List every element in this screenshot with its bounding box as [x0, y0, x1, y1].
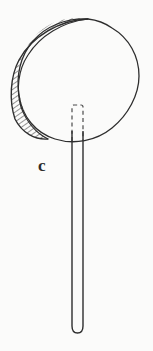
figure-part-label-c: c	[38, 157, 46, 174]
disc-outline	[18, 19, 139, 142]
figure-container: c	[0, 0, 153, 351]
handle-shaft-outline	[72, 131, 83, 333]
line-drawing-illustration	[0, 0, 153, 351]
dashed-hidden-tang	[72, 105, 83, 141]
